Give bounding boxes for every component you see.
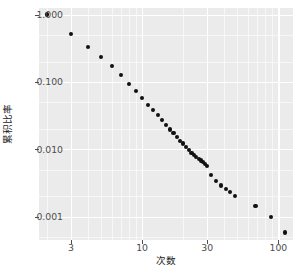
data-point: [146, 103, 150, 107]
gridline-y-major: [39, 149, 293, 150]
data-point: [86, 45, 90, 49]
x-axis-title: 次数: [39, 256, 293, 266]
y-tick-mark: [35, 15, 39, 16]
gridline-x-major: [278, 8, 279, 240]
data-point: [127, 82, 131, 86]
data-point: [160, 118, 164, 122]
gridline-y-minor: [39, 196, 293, 197]
gridline-x-minor: [112, 8, 113, 240]
data-point: [151, 108, 155, 112]
y-tick-label: 0.100: [36, 77, 63, 86]
data-point: [156, 113, 160, 117]
gridline-y-minor: [39, 102, 293, 103]
x-tick-mark: [71, 240, 72, 244]
gridline-x-major: [207, 8, 208, 240]
gridline-x-minor: [272, 8, 273, 240]
x-tick-label: 30: [201, 243, 213, 252]
data-point: [228, 190, 232, 194]
data-point: [253, 204, 257, 208]
data-point: [209, 173, 213, 177]
chart-container: 1.0000.1000.0100.00131030100 次数 累积比率: [0, 0, 301, 277]
data-point: [214, 179, 218, 183]
y-tick-mark: [35, 82, 39, 83]
data-point: [164, 123, 168, 127]
data-point: [69, 32, 73, 36]
y-tick-mark: [35, 217, 39, 218]
data-point: [283, 230, 287, 234]
gridline-x-minor: [136, 8, 137, 240]
data-point: [134, 89, 138, 93]
gridline-x-major: [71, 8, 72, 240]
gridline-y-minor: [39, 129, 293, 130]
gridline-x-major: [142, 8, 143, 240]
y-tick-label: 0.010: [36, 145, 63, 154]
data-point: [219, 183, 223, 187]
data-point: [99, 55, 103, 59]
gridline-x-minor: [265, 8, 266, 240]
gridline-x-minor: [47, 8, 48, 240]
data-point: [269, 215, 273, 219]
gridline-x-minor: [237, 8, 238, 240]
data-point: [224, 187, 228, 191]
gridline-x-minor: [248, 8, 249, 240]
data-point: [119, 73, 123, 77]
y-tick-label: 1.000: [36, 10, 63, 19]
x-tick-label: 100: [270, 243, 288, 252]
gridline-x-minor: [183, 8, 184, 240]
gridline-y-minor: [39, 237, 293, 238]
data-point: [140, 96, 144, 100]
x-tick-mark: [207, 240, 208, 244]
y-axis-title-text: 累积比率: [3, 104, 13, 144]
gridline-y-minor: [39, 170, 293, 171]
gridline-x-minor: [129, 8, 130, 240]
x-tick-mark: [142, 240, 143, 244]
x-tick-mark: [278, 240, 279, 244]
gridline-y-minor: [39, 35, 293, 36]
gridline-y-major: [39, 15, 293, 16]
y-axis-title: 累积比率: [2, 0, 14, 248]
plot-panel: [39, 8, 293, 240]
gridline-x-minor: [121, 8, 122, 240]
gridline-y-major: [39, 82, 293, 83]
x-tick-label: 3: [68, 243, 74, 252]
y-tick-mark: [35, 149, 39, 150]
gridline-y-minor: [39, 62, 293, 63]
data-point: [205, 164, 209, 168]
data-point: [110, 64, 114, 68]
gridline-x-minor: [101, 8, 102, 240]
y-tick-label: 0.001: [36, 212, 63, 221]
gridline-y-major: [39, 217, 293, 218]
gridline-x-minor: [88, 8, 89, 240]
gridline-x-minor: [224, 8, 225, 240]
x-tick-label: 10: [136, 243, 148, 252]
